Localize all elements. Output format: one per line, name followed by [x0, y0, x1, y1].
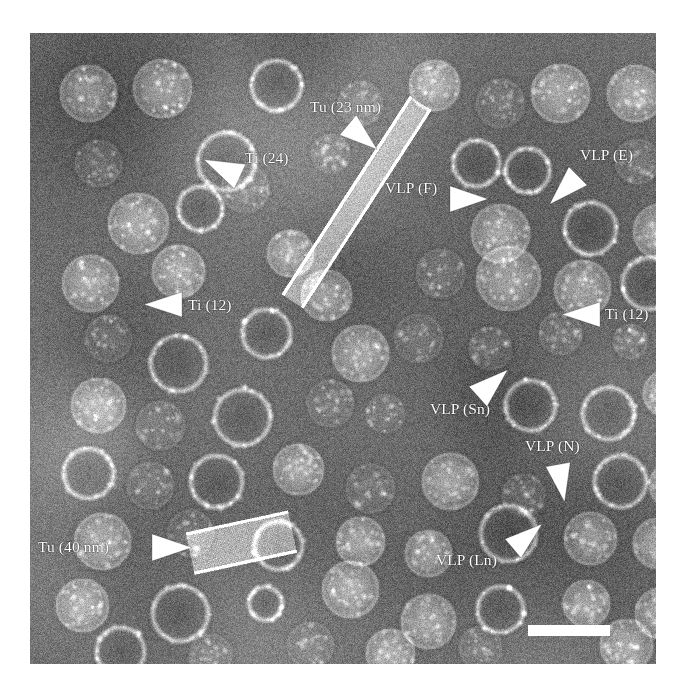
- figure-root: Tu (23 nm) Ti (24) VLP (F) VLP (E) Ti (1…: [0, 0, 684, 688]
- micrograph-canvas: [30, 33, 656, 664]
- electron-micrograph-plate: [30, 33, 656, 664]
